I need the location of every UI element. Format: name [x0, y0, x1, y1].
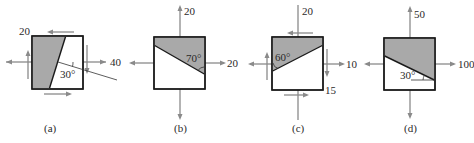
label-normal-x-a: 40 — [110, 56, 122, 68]
caption-b: (b) — [174, 122, 187, 135]
caption-a: (a) — [44, 122, 57, 135]
label-angle-c: 60° — [275, 51, 290, 63]
label-normal-x-b: 20 — [227, 57, 239, 69]
panel-b: 20 20 70° (b) — [129, 5, 239, 135]
label-normal-x-c: 10 — [346, 58, 358, 70]
panel-c: 20 10 15 60° (c) — [248, 5, 358, 135]
stress-element-figure: 20 40 30° (a) 20 20 70° (b) — [0, 0, 474, 143]
arrowhead-left-a — [6, 60, 12, 65]
label-normal-y-b: 20 — [184, 5, 196, 17]
label-shear-a: 20 — [19, 25, 31, 37]
arrowhead-right-a — [100, 60, 106, 65]
caption-d: (d) — [404, 122, 417, 135]
panel-a: 20 40 30° (a) — [6, 25, 122, 135]
label-normal-y-c: 20 — [302, 5, 314, 17]
label-angle-a: 30° — [60, 68, 75, 80]
label-normal-y-d: 50 — [414, 8, 426, 20]
caption-c: (c) — [292, 122, 305, 135]
panel-d: 50 100 30° (d) — [364, 6, 474, 135]
label-shear-c: 15 — [325, 84, 337, 96]
label-angle-b: 70° — [186, 52, 201, 64]
label-normal-x-d: 100 — [458, 58, 474, 70]
label-angle-d: 30° — [400, 69, 415, 81]
